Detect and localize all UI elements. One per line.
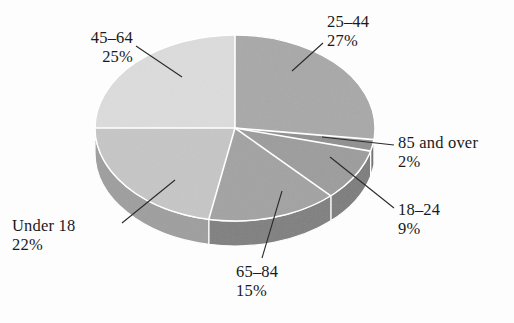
slice-label-25-44-category: 25–44 — [327, 12, 417, 31]
pie-slice-25-44 — [235, 35, 375, 140]
slice-label-under-18-category: Under 18 — [12, 216, 122, 235]
slice-label-under-18: Under 18 22% — [12, 216, 122, 254]
slice-label-45-64-category: 45–64 — [47, 28, 133, 47]
slice-label-85-and-over-category: 85 and over — [398, 133, 510, 152]
slice-label-under-18-percent: 22% — [12, 235, 122, 254]
slice-label-18-24: 18–24 9% — [398, 200, 488, 238]
slice-label-25-44-percent: 27% — [327, 31, 417, 50]
slice-label-18-24-percent: 9% — [398, 219, 488, 238]
slice-label-85-and-over: 85 and over 2% — [398, 133, 510, 171]
slice-label-65-84: 65–84 15% — [236, 262, 322, 300]
slice-label-45-64-percent: 25% — [47, 47, 133, 66]
slice-label-85-and-over-percent: 2% — [398, 152, 510, 171]
slice-label-25-44: 25–44 27% — [327, 12, 417, 50]
slice-label-45-64: 45–64 25% — [47, 28, 133, 66]
slice-label-65-84-category: 65–84 — [236, 262, 322, 281]
pie-chart-page: 45–64 25% 25–44 27% 85 and over 2% 18–24… — [0, 0, 514, 323]
slice-label-18-24-category: 18–24 — [398, 200, 488, 219]
slice-label-65-84-percent: 15% — [236, 281, 322, 300]
